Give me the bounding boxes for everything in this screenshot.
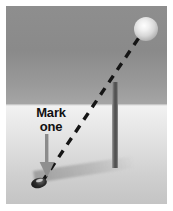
illustration-frame: Mark one: [6, 6, 167, 204]
glowing-ball-icon: [134, 17, 158, 41]
figure-root: Mark one: [0, 0, 173, 211]
caption-line-1: Mark: [20, 106, 82, 120]
down-pointer-icon: [39, 134, 55, 178]
caption-label: Mark one: [20, 106, 82, 134]
caption-line-2: one: [20, 120, 82, 134]
vertical-post: [112, 82, 118, 168]
